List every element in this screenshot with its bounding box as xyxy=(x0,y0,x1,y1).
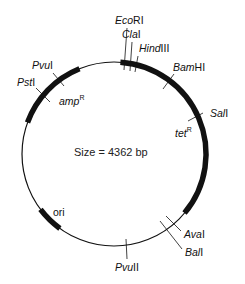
site-label-psti: PstI xyxy=(17,76,35,88)
gene-label-tetR: tetR xyxy=(175,126,192,139)
plasmid-size-label: Size = 4362 bp xyxy=(74,146,148,158)
site-label-pvuii: PvuII xyxy=(115,261,139,273)
site-tick-bali xyxy=(160,221,182,249)
site-label-bamhi: BamHI xyxy=(173,61,205,73)
site-label-clai: ClaI xyxy=(122,28,141,40)
gene-label-ampR: ampR xyxy=(59,94,85,107)
site-label-pvui: PvuI xyxy=(32,59,53,71)
site-label-avai: AvaI xyxy=(183,228,205,240)
plasmid-map: EcoRI ClaI HindIII BamHI SalI AvaI BalI … xyxy=(0,0,245,284)
site-label-sali: SalI xyxy=(210,107,228,119)
site-label-hindiii: HindIII xyxy=(139,42,169,54)
gene-label-ori: ori xyxy=(53,206,65,218)
site-label-ecori: EcoRI xyxy=(115,14,144,26)
gene-arc-tetR xyxy=(120,62,206,213)
site-tick-pvuii xyxy=(126,239,127,259)
site-label-bali: BalI xyxy=(185,246,203,258)
site-tick-clai xyxy=(130,42,132,71)
